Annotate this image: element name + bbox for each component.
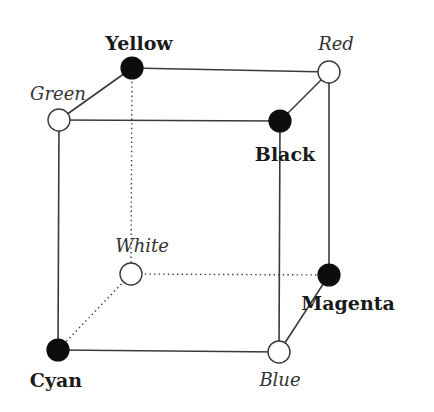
edge-white-magenta-hidden [131,274,329,275]
edges-layer [58,68,329,352]
nodes-layer [47,57,340,363]
label-yellow: Yellow [104,32,173,54]
edge-blue-cyan [58,350,279,352]
node-white-open-circle-icon [120,263,142,285]
edge-yellow-red [132,68,329,72]
node-green-open-circle-icon [48,109,70,131]
node-yellow-filled-circle-icon [121,57,143,79]
label-blue: Blue [258,369,300,390]
cube-canvas: YellowRedGreenBlackWhiteMagentaCyanBlue [0,0,434,412]
label-black: Black [255,143,316,165]
label-red: Red [317,33,354,54]
node-blue-open-circle-icon [268,341,290,363]
edge-cyan-green [58,120,59,350]
node-black-filled-circle-icon [269,110,291,132]
node-cyan-filled-circle-icon [47,339,69,361]
label-cyan: Cyan [30,369,82,391]
color-cube-diagram: YellowRedGreenBlackWhiteMagentaCyanBlue [0,0,434,412]
label-green: Green [30,83,86,104]
label-white: White [115,235,169,256]
node-red-open-circle-icon [318,61,340,83]
edge-white-cyan-hidden [58,274,131,350]
edge-green-black [59,120,280,121]
label-magenta: Magenta [301,292,395,314]
labels-layer: YellowRedGreenBlackWhiteMagentaCyanBlue [30,32,395,391]
node-magenta-filled-circle-icon [318,264,340,286]
